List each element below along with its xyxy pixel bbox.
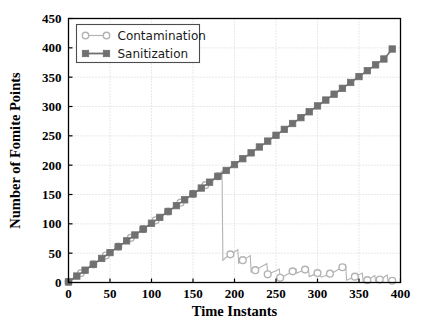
x-axis-title: Time Instants	[192, 303, 278, 319]
x-tick-label: 50	[104, 286, 117, 301]
data-marker	[281, 126, 287, 132]
data-marker	[215, 173, 221, 179]
data-marker	[298, 114, 304, 120]
y-axis-title: Number of Fomite Points	[7, 72, 23, 229]
data-marker	[356, 73, 362, 79]
y-tick-label: 350	[42, 70, 62, 85]
data-marker	[289, 120, 295, 126]
data-marker	[314, 270, 321, 277]
data-marker	[165, 208, 171, 214]
data-marker	[231, 161, 237, 167]
data-marker	[240, 156, 246, 162]
legend-label: Sanitization	[118, 47, 189, 61]
data-marker	[273, 132, 279, 138]
data-marker	[90, 261, 96, 267]
data-marker	[339, 85, 345, 91]
data-marker	[351, 273, 358, 280]
data-marker	[82, 267, 88, 273]
data-marker	[264, 271, 271, 278]
data-marker	[331, 91, 337, 97]
data-marker	[323, 97, 329, 103]
data-marker	[148, 220, 154, 226]
data-marker	[289, 268, 296, 275]
data-marker	[339, 264, 346, 271]
y-tick-label: 0	[55, 275, 62, 290]
y-tick-label: 50	[49, 246, 62, 261]
data-marker	[348, 79, 354, 85]
x-tick-label: 100	[142, 286, 162, 301]
data-marker	[239, 257, 246, 264]
y-tick-label: 150	[42, 187, 62, 202]
series-contamination	[65, 171, 396, 285]
data-marker	[306, 109, 312, 115]
data-marker	[364, 68, 370, 74]
x-tick-label: 150	[183, 286, 203, 301]
y-tick-label: 100	[42, 216, 62, 231]
data-marker	[190, 191, 196, 197]
data-marker	[327, 270, 334, 277]
legend-marker-sample	[103, 50, 109, 56]
data-marker	[123, 238, 129, 244]
data-marker	[173, 202, 179, 208]
data-marker	[182, 197, 188, 203]
data-marker	[140, 226, 146, 232]
chart-figure: 0501001502002503003504004500501001502002…	[0, 0, 424, 324]
data-marker	[381, 56, 387, 62]
series-sanitization	[65, 46, 395, 285]
plot-canvas: 0501001502002503003504004500501001502002…	[0, 0, 424, 324]
data-marker	[389, 46, 395, 52]
data-marker	[302, 266, 309, 273]
x-tick-label: 0	[65, 286, 72, 301]
data-marker	[314, 103, 320, 109]
data-marker	[227, 251, 234, 258]
series-layer	[65, 46, 396, 286]
data-marker	[132, 232, 138, 238]
legend-marker-sample	[82, 50, 88, 56]
x-tick-label: 350	[349, 286, 369, 301]
data-marker	[248, 150, 254, 156]
chart-legend[interactable]: ContaminationSanitization	[77, 25, 206, 63]
data-marker	[206, 179, 212, 185]
data-marker	[223, 167, 229, 173]
legend-marker-sample	[103, 32, 109, 38]
x-tick-label: 300	[308, 286, 328, 301]
data-marker	[99, 255, 105, 261]
data-marker	[198, 185, 204, 191]
data-marker	[252, 267, 259, 274]
x-tick-label: 250	[266, 286, 286, 301]
data-marker	[256, 144, 262, 150]
data-marker	[277, 274, 284, 281]
data-marker	[157, 214, 163, 220]
data-marker	[372, 62, 378, 68]
y-tick-label: 250	[42, 128, 62, 143]
data-marker	[265, 138, 271, 144]
legend-marker-sample	[82, 32, 88, 38]
y-tick-label: 400	[42, 40, 62, 55]
legend-label: Contamination	[118, 29, 206, 43]
y-tick-label: 200	[42, 158, 62, 173]
data-marker	[107, 249, 113, 255]
y-tick-label: 450	[42, 11, 62, 26]
data-marker	[74, 273, 80, 279]
y-tick-label: 300	[42, 99, 62, 114]
x-tick-label: 200	[225, 286, 245, 301]
data-marker	[115, 244, 121, 250]
x-tick-label: 400	[391, 286, 411, 301]
